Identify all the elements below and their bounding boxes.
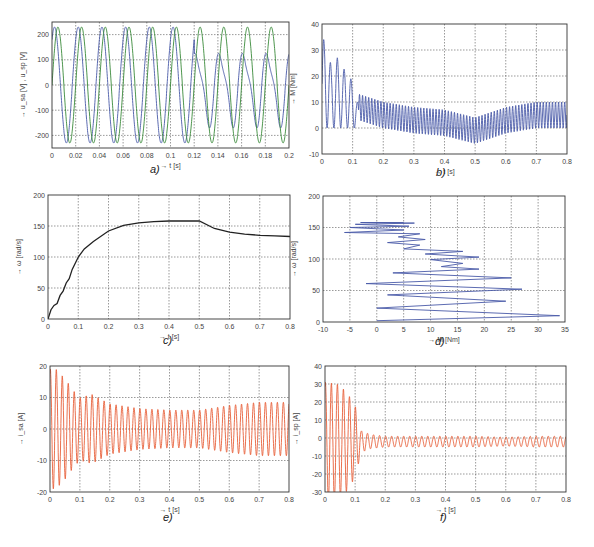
caption-d: d) <box>435 335 445 347</box>
caption-e: e) <box>163 511 173 523</box>
x-tick-label: 0.4 <box>441 496 451 503</box>
y-tick-label: 10 <box>314 417 322 424</box>
caption-b: b) <box>436 166 446 178</box>
x-tick-label: 0.1 <box>350 496 360 503</box>
caption-c: c) <box>163 334 172 346</box>
x-tick-label: 0 <box>323 496 327 503</box>
y-tick-label: 20 <box>314 399 322 406</box>
y-tick-label: 40 <box>314 363 322 370</box>
y-tick-label: 30 <box>314 381 322 388</box>
x-tick-label: 0.8 <box>561 496 571 503</box>
x-tick-label: 0.7 <box>531 496 541 503</box>
x-tick-label: 0.6 <box>501 496 511 503</box>
x-tick-label: 0.2 <box>380 496 390 503</box>
y-tick-label: -20 <box>312 471 322 478</box>
y-tick-label: -10 <box>312 453 322 460</box>
chart-f: 00.10.20.30.40.50.60.70.8-30-20-10010203… <box>0 0 594 547</box>
x-tick-label: 0.3 <box>411 496 421 503</box>
y-axis-label: → i_sp [A] <box>292 413 300 445</box>
x-tick-label: 0.5 <box>471 496 481 503</box>
caption-a: a) <box>150 163 160 175</box>
caption-f: f) <box>440 511 447 523</box>
y-tick-label: -30 <box>312 489 322 496</box>
y-tick-label: 0 <box>318 435 322 442</box>
